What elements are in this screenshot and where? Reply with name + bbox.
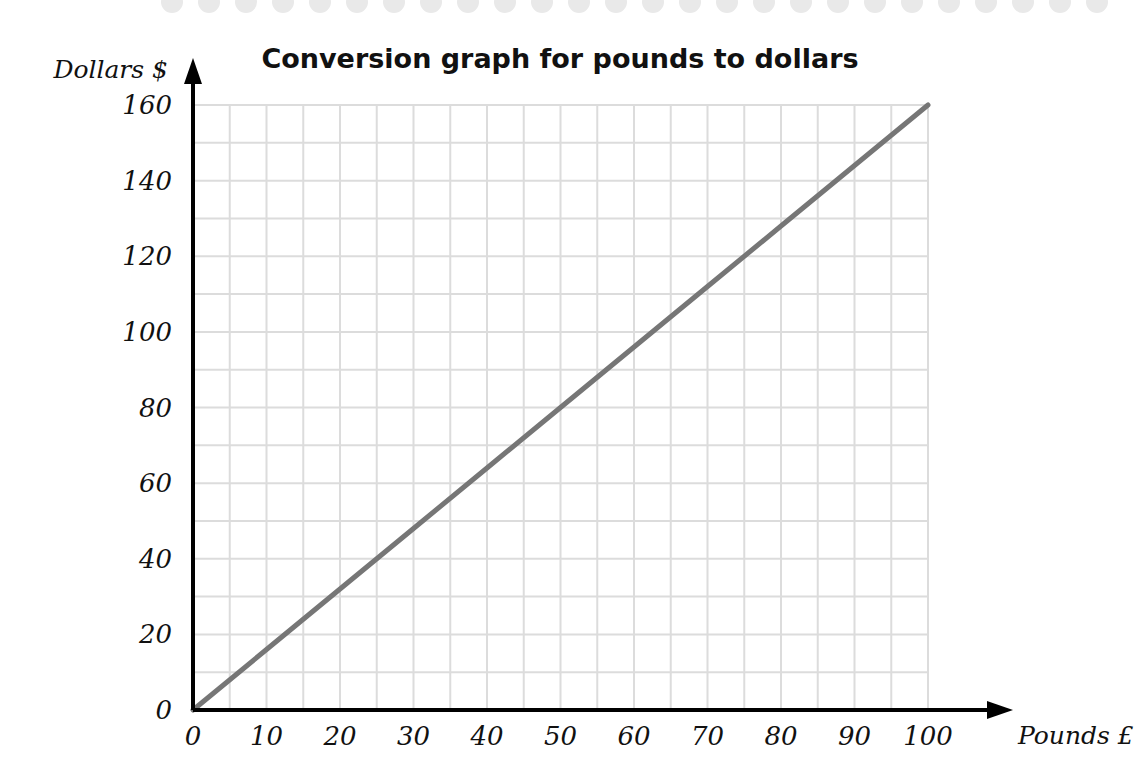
y-tick-label: 40 — [138, 544, 172, 574]
x-axis-label: Pounds £ — [1017, 721, 1134, 750]
x-axis-arrow-icon — [987, 701, 1013, 719]
x-tick-label: 50 — [544, 721, 577, 751]
x-tick-label: 90 — [838, 721, 871, 751]
y-axis-arrow-icon — [184, 58, 202, 84]
x-tick-label: 70 — [691, 721, 724, 751]
x-tick-label: 20 — [322, 721, 356, 751]
y-tick-label: 20 — [138, 619, 172, 649]
x-tick-label: 80 — [764, 721, 797, 751]
conversion-line-chart: 0102030405060708090100 02040608010012014… — [0, 0, 1144, 779]
y-axis-tick-labels: 020406080100120140160 — [122, 90, 172, 725]
x-tick-label: 100 — [903, 721, 953, 751]
y-tick-label: 120 — [122, 241, 172, 271]
y-tick-label: 160 — [122, 90, 172, 120]
axes-group — [184, 58, 1013, 719]
x-tick-label: 10 — [250, 721, 283, 751]
y-tick-label: 0 — [155, 695, 172, 725]
chart-title: Conversion graph for pounds to dollars — [261, 43, 858, 74]
y-axis-label: Dollars $ — [52, 55, 168, 84]
x-tick-label: 0 — [185, 721, 202, 751]
x-tick-label: 30 — [397, 721, 430, 751]
y-tick-label: 140 — [122, 166, 172, 196]
y-tick-label: 80 — [139, 393, 172, 423]
y-tick-label: 100 — [122, 317, 172, 347]
x-axis-tick-labels: 0102030405060708090100 — [185, 721, 953, 751]
x-tick-label: 60 — [617, 721, 650, 751]
y-tick-label: 60 — [139, 468, 172, 498]
x-tick-label: 40 — [469, 721, 503, 751]
